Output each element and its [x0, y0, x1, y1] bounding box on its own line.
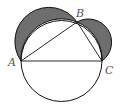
label-b: B	[75, 7, 84, 20]
lune-bc-shaded	[77, 19, 112, 61]
lunes-diagram: A B C	[0, 0, 122, 109]
lune-ab-shaded	[15, 7, 77, 61]
label-a: A	[7, 56, 16, 69]
label-c: C	[105, 64, 114, 77]
